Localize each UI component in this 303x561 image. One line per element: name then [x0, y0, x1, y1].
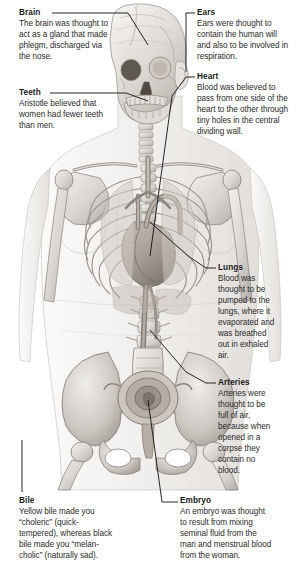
annotation-ears-body: Ears were thought to contain the human w…	[197, 19, 301, 63]
annotation-bile-body: Yellow bile made you “choleric” (quick- …	[19, 507, 151, 561]
annotation-heart: Heart Blood was believed to pass from on…	[197, 72, 303, 138]
annotation-embryo: Embryo An embryo was thought to result f…	[180, 496, 302, 561]
annotation-ears-title: Ears	[197, 8, 301, 18]
annotation-bile: Bile Yellow bile made you “choleric” (qu…	[19, 496, 151, 561]
annotation-teeth-title: Teeth	[19, 88, 147, 98]
annotation-arteries-body: Arteries were thought to be full of air,…	[218, 389, 284, 477]
annotation-brain-title: Brain	[19, 8, 147, 18]
annotation-teeth: Teeth Aristotle believed that women had …	[19, 88, 147, 132]
annotation-lungs-title: Lungs	[218, 263, 282, 273]
annotation-teeth-body: Aristotle believed that women had fewer …	[19, 99, 147, 132]
annotation-bile-title: Bile	[19, 496, 151, 506]
annotation-embryo-body: An embryo was thought to result from mix…	[180, 507, 302, 561]
annotation-brain-body: The brain was thought to act as a gland …	[19, 19, 147, 63]
annotation-heart-title: Heart	[197, 72, 303, 82]
annotation-lungs-body: Blood was thought to be pumped to the lu…	[218, 274, 282, 362]
ear	[175, 61, 188, 90]
annotation-arteries-title: Arteries	[218, 378, 284, 388]
annotation-brain: Brain The brain was thought to act as a …	[19, 8, 147, 63]
annotation-arteries: Arteries Arteries were thought to be ful…	[218, 378, 284, 477]
annotation-lungs: Lungs Blood was thought to be pumped to …	[218, 263, 282, 362]
annotation-embryo-title: Embryo	[180, 496, 302, 506]
annotation-heart-body: Blood was believed to pass from one side…	[197, 83, 303, 138]
annotation-ears: Ears Ears were thought to contain the hu…	[197, 8, 301, 63]
anatomy-figure: Brain The brain was thought to act as a …	[0, 0, 303, 561]
